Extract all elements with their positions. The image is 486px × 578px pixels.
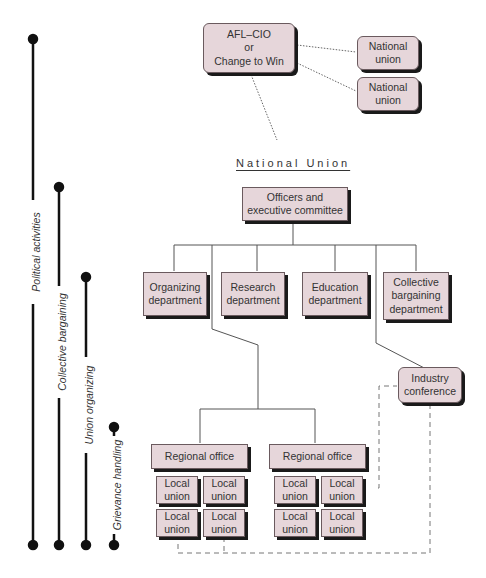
local-union-box: Local union [156,509,198,537]
regional-office-box: Regional office [269,444,366,469]
union-organizing-label: Union organizing [83,357,95,453]
officers-box: Officers and executive committee [242,187,348,221]
national-union-box: National union [357,77,419,111]
local-union-box: Local union [203,509,245,537]
local-union-box: Local union [203,476,245,504]
organizing-department-box: Organizing department [143,272,207,316]
industry-conference-box: Industry conference [398,367,462,403]
national-union-title: National Union [236,157,350,169]
regional-office-box: Regional office [151,444,248,469]
local-union-box: Local union [274,509,316,537]
national-union-box: National union [357,36,419,70]
collective-bargaining-label: Collective bargaining [56,286,68,398]
local-union-box: Local union [321,476,363,504]
education-department-box: Education department [302,272,368,316]
political-activities-label: Political activities [30,200,42,304]
collective-bargaining-department-box: Collective bargaining department [383,272,449,320]
research-department-box: Research department [221,272,285,316]
federation-box: AFL–CIO or Change to Win [203,23,295,73]
local-union-box: Local union [274,476,316,504]
local-union-box: Local union [156,476,198,504]
local-union-box: Local union [321,509,363,537]
grievance-handling-label: Grievance handling [111,436,123,534]
